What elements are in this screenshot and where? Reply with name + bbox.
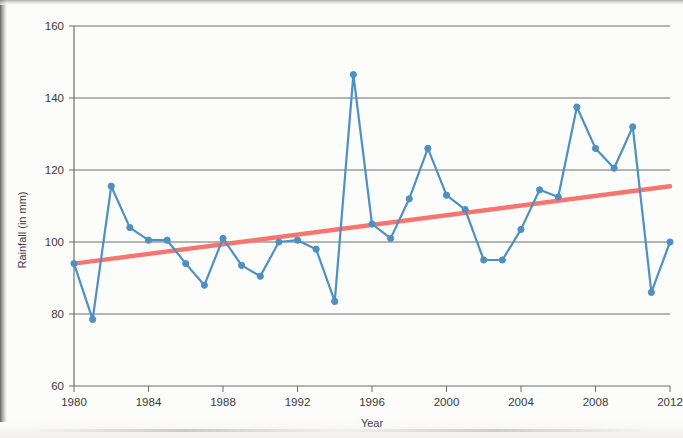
data-point-2011	[648, 289, 654, 295]
data-point-2000	[443, 192, 449, 198]
data-point-1994	[332, 298, 338, 304]
data-point-1999	[425, 145, 431, 151]
x-tick-label-1988: 1988	[210, 396, 236, 408]
y-tick-label-120: 120	[45, 164, 64, 176]
y-tick-label-160: 160	[45, 20, 64, 32]
data-point-1989	[239, 262, 245, 268]
x-tick-label-2012: 2012	[657, 396, 683, 408]
data-point-1983	[127, 225, 133, 231]
data-point-1996	[369, 221, 375, 227]
data-point-1982	[108, 183, 114, 189]
data-point-2012	[667, 239, 673, 245]
data-point-1998	[406, 196, 412, 202]
x-tick-label-1984: 1984	[136, 396, 162, 408]
data-point-1987	[201, 282, 207, 288]
data-point-1986	[183, 261, 189, 267]
x-tick-label-1992: 1992	[285, 396, 311, 408]
data-point-1984	[145, 237, 151, 243]
data-point-1992	[294, 237, 300, 243]
data-point-2009	[611, 165, 617, 171]
data-point-2005	[537, 187, 543, 193]
y-axis-title: Rainfall (in mm)	[16, 191, 28, 268]
data-point-1981	[90, 316, 96, 322]
data-point-1988	[220, 235, 226, 241]
y-tick-label-140: 140	[45, 92, 64, 104]
chart-svg: 1601401201008060 19801984198819921996200…	[0, 0, 683, 438]
data-point-1995	[350, 72, 356, 78]
data-point-2004	[518, 226, 524, 232]
data-point-2003	[499, 257, 505, 263]
y-tick-label-100: 100	[45, 236, 64, 248]
rainfall-line-chart: 1601401201008060 19801984198819921996200…	[0, 0, 683, 438]
x-tick-label-2008: 2008	[583, 396, 609, 408]
data-point-1980	[71, 261, 77, 267]
data-point-1990	[257, 273, 263, 279]
data-point-2002	[481, 257, 487, 263]
data-point-1985	[164, 237, 170, 243]
x-axis-tick-labels: 198019841988199219962000200420082012	[61, 396, 683, 408]
data-point-2008	[592, 145, 598, 151]
x-axis-title: Year	[361, 417, 384, 429]
data-point-2010	[630, 124, 636, 130]
y-tick-label-80: 80	[51, 308, 64, 320]
x-tick-label-1996: 1996	[359, 396, 385, 408]
data-point-2001	[462, 207, 468, 213]
y-axis-tick-labels: 1601401201008060	[45, 20, 64, 392]
data-point-1997	[388, 235, 394, 241]
data-point-1991	[276, 239, 282, 245]
data-point-2007	[574, 104, 580, 110]
x-tick-label-2000: 2000	[434, 396, 460, 408]
x-tick-label-2004: 2004	[508, 396, 534, 408]
x-tick-label-1980: 1980	[61, 396, 87, 408]
y-tick-label-60: 60	[51, 380, 64, 392]
data-point-2006	[555, 194, 561, 200]
data-point-1993	[313, 246, 319, 252]
gridlines	[74, 26, 670, 386]
